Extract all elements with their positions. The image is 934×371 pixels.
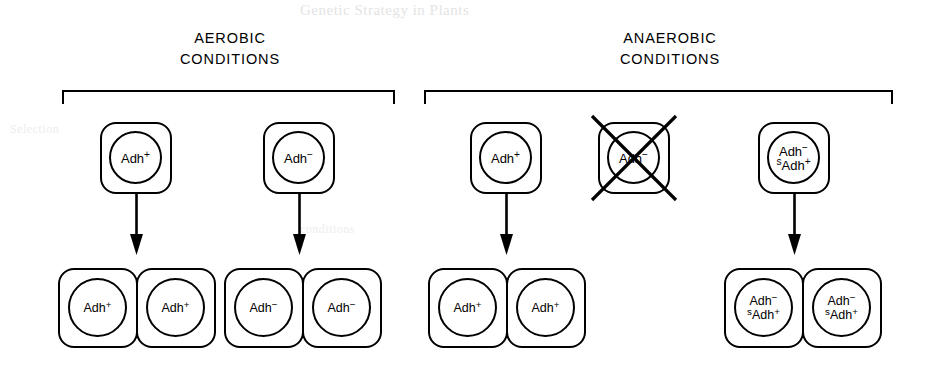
nucleus: Adh−sAdh+ [767,131,820,184]
genotype-superscript: − [642,149,648,160]
group-heading-aerobic-line2: CONDITIONS [180,51,280,67]
parent-cell-anaerobic-adh-plus: Adh+ [470,122,542,194]
group-heading-aerobic: AEROBIC CONDITIONS [130,28,330,70]
genotype-line: sAdh+ [825,307,858,323]
nucleus: Adh− [607,131,660,184]
genotype-superscript: − [802,142,808,153]
genotype-line: Adh+ [491,150,520,165]
daughter-cell: Adh−sAdh+ [802,268,882,348]
nucleus: Adh−sAdh+ [812,278,871,337]
genotype-label: Adh−sAdh+ [776,143,810,172]
genotype-superscript: + [554,299,560,310]
genotype-line: Adh+ [162,300,190,316]
genotype-line: Adh+ [532,300,560,316]
daughter-cell: Adh+ [58,268,138,348]
nucleus: Adh− [272,131,325,184]
page-bleed-through-title: Genetic Strategy in Plants [300,2,469,19]
daughter-cell: Adh− [302,268,382,348]
division-arrow-anaerobic-adh-plus [498,194,515,256]
genotype-line: Adh+ [454,300,482,316]
genotype-line: Adh+ [121,150,150,165]
nucleus: Adh+ [479,131,532,184]
genotype-label: Adh+ [121,150,150,165]
genotype-label: Adh+ [532,300,560,316]
adh-selection-diagram: Genetic Strategy in Plants Selection con… [0,0,934,371]
genotype-superscript: + [514,149,520,160]
daughter-cell: Adh+ [428,268,508,348]
parent-cell-anaerobic-adh-minus-killed: Adh− [598,122,670,194]
group-heading-anaerobic-line1: ANAEROBIC [623,30,717,46]
genotype-superscript: + [805,156,811,167]
parent-cell-anaerobic-merodiploid: Adh−sAdh+ [758,122,830,194]
genotype-label: Adh+ [491,150,520,165]
genotype-line: sAdh+ [747,307,780,323]
genotype-superscript: − [272,299,278,310]
group-heading-anaerobic: ANAEROBIC CONDITIONS [560,28,780,70]
daughter-cell: Adh+ [136,268,216,348]
parent-cell-aerobic-adh-plus: Adh+ [100,122,172,194]
nucleus: Adh− [312,278,371,337]
genotype-superscript: + [476,299,482,310]
genotype-superscript: + [144,149,150,160]
group-bracket-aerobic [62,90,395,104]
genotype-line: Adh− [328,300,356,316]
genotype-presuperscript: s [776,156,781,167]
genotype-label: Adh−sAdh+ [825,293,858,323]
page-bleed-through-left: Selection [10,122,59,137]
genotype-line: Adh− [250,300,278,316]
genotype-superscript: − [350,299,356,310]
genotype-superscript: − [307,149,313,160]
division-arrow-anaerobic-merodiploid [786,194,803,256]
genotype-presuperscript: s [825,306,830,317]
genotype-line: Adh− [284,150,313,165]
genotype-label: Adh+ [84,300,112,316]
nucleus: Adh+ [146,278,205,337]
daughter-cell: Adh+ [506,268,586,348]
daughter-cell: Adh−sAdh+ [724,268,804,348]
genotype-label: Adh+ [162,300,190,316]
parent-cell-aerobic-adh-minus: Adh− [263,122,335,194]
nucleus: Adh+ [109,131,162,184]
nucleus: Adh−sAdh+ [734,278,793,337]
genotype-superscript: + [774,306,780,317]
page-bleed-through-mid: conditions [300,222,355,237]
genotype-label: Adh+ [454,300,482,316]
genotype-line: Adh+ [84,300,112,316]
nucleus: Adh+ [68,278,127,337]
genotype-superscript: − [850,292,856,303]
genotype-superscript: + [852,306,858,317]
genotype-superscript: + [106,299,112,310]
division-arrow-aerobic-adh-minus [291,194,308,256]
genotype-label: Adh− [250,300,278,316]
genotype-superscript: − [772,292,778,303]
genotype-label: Adh− [619,150,648,165]
genotype-line: sAdh+ [776,157,810,172]
genotype-superscript: + [184,299,190,310]
nucleus: Adh− [234,278,293,337]
division-arrow-aerobic-adh-plus [128,194,145,256]
genotype-label: Adh−sAdh+ [747,293,780,323]
genotype-presuperscript: s [747,306,752,317]
nucleus: Adh+ [516,278,575,337]
genotype-line: Adh− [619,150,648,165]
nucleus: Adh+ [438,278,497,337]
group-heading-anaerobic-line2: CONDITIONS [620,51,720,67]
genotype-label: Adh− [284,150,313,165]
group-heading-aerobic-line1: AEROBIC [194,30,266,46]
genotype-label: Adh− [328,300,356,316]
daughter-cell: Adh− [224,268,304,348]
group-bracket-anaerobic [424,90,893,104]
